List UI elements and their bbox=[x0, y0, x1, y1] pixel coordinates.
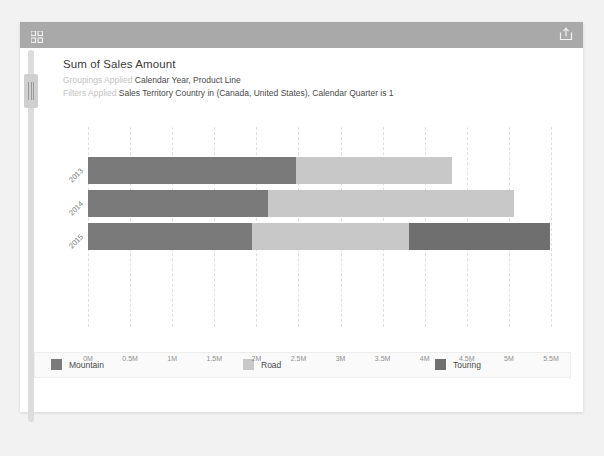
filters-label: Filters Applied bbox=[63, 88, 116, 98]
x-tick-label: 3.5M bbox=[375, 355, 391, 362]
legend-swatch bbox=[435, 359, 446, 370]
page-title: Sum of Sales Amount bbox=[63, 58, 563, 70]
title-block: Sum of Sales Amount Groupings Applied Ca… bbox=[63, 58, 563, 101]
legend-item[interactable]: Mountain bbox=[51, 359, 104, 370]
x-tick-label: 5M bbox=[504, 355, 514, 362]
card-header-bar bbox=[20, 22, 583, 48]
bar-segment-touring[interactable] bbox=[409, 223, 550, 250]
resize-grid-icon[interactable] bbox=[31, 29, 43, 41]
filters-row: Filters Applied Sales Territory Country … bbox=[63, 88, 563, 98]
plot-area: 201320142015 bbox=[88, 127, 551, 327]
legend-item[interactable]: Road bbox=[243, 359, 281, 370]
bar-segment-mountain[interactable] bbox=[88, 190, 268, 217]
filters-value: Sales Territory Country in (Canada, Unit… bbox=[119, 88, 394, 98]
x-tick-label: 2M bbox=[251, 355, 261, 362]
legend-swatch bbox=[51, 359, 62, 370]
gridline bbox=[551, 127, 552, 327]
bar-segment-road[interactable] bbox=[296, 157, 452, 184]
x-tick-label: 2.5M bbox=[291, 355, 307, 362]
x-tick-label: 0.5M bbox=[122, 355, 138, 362]
bar-segment-road[interactable] bbox=[252, 223, 409, 250]
bar-segment-road[interactable] bbox=[268, 190, 514, 217]
y-axis-label-2013: 2013 bbox=[58, 166, 86, 194]
groupings-value: Calendar Year, Product Line bbox=[135, 75, 241, 85]
y-axis-label-2015: 2015 bbox=[58, 232, 86, 260]
groupings-label: Groupings Applied bbox=[63, 75, 132, 85]
chart-card: Sum of Sales Amount Groupings Applied Ca… bbox=[20, 22, 583, 412]
x-tick-label: 5.5M bbox=[543, 355, 559, 362]
x-tick-label: 3M bbox=[336, 355, 346, 362]
x-tick-label: 4M bbox=[420, 355, 430, 362]
x-tick-label: 4.5M bbox=[459, 355, 475, 362]
groupings-row: Groupings Applied Calendar Year, Product… bbox=[63, 75, 563, 85]
x-tick-label: 0M bbox=[83, 355, 93, 362]
x-tick-label: 1M bbox=[167, 355, 177, 362]
bar-segment-mountain[interactable] bbox=[88, 157, 296, 184]
x-tick-label: 1.5M bbox=[206, 355, 222, 362]
y-axis-label-2014: 2014 bbox=[58, 199, 86, 227]
export-share-icon[interactable] bbox=[559, 27, 573, 41]
legend-label: Road bbox=[261, 360, 281, 370]
scroll-grip-handle[interactable] bbox=[24, 74, 38, 108]
bar-segment-mountain[interactable] bbox=[88, 223, 252, 250]
